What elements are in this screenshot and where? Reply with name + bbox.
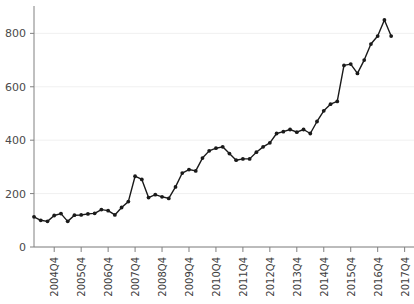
x-tick-label-2015Q4: 2015Q4 xyxy=(346,257,357,297)
data-point xyxy=(86,212,90,216)
data-point xyxy=(335,100,339,104)
y-tick-label-200: 200 xyxy=(5,188,26,201)
data-point xyxy=(126,200,130,204)
data-point xyxy=(369,42,373,46)
data-point xyxy=(66,219,70,223)
data-point xyxy=(160,195,164,199)
data-point xyxy=(113,213,117,217)
data-point xyxy=(383,18,387,22)
x-tick-label-2008Q4: 2008Q4 xyxy=(157,257,168,297)
chart-container: 0200400600800 2004Q42005Q42006Q42007Q420… xyxy=(0,0,414,304)
data-point xyxy=(261,145,265,149)
data-point xyxy=(234,158,238,162)
x-tick-label-2006Q4: 2006Q4 xyxy=(103,257,114,297)
data-point xyxy=(342,64,346,68)
data-point xyxy=(228,152,232,156)
x-tick-label-2013Q4: 2013Q4 xyxy=(292,257,303,297)
y-tick-label-600: 600 xyxy=(5,81,26,94)
data-point xyxy=(288,128,292,132)
data-point xyxy=(120,206,124,210)
data-point xyxy=(349,62,353,66)
x-tick-label-2012Q4: 2012Q4 xyxy=(265,257,276,297)
data-point xyxy=(308,132,312,136)
data-point xyxy=(133,174,137,178)
data-point xyxy=(93,211,97,215)
data-point xyxy=(201,156,205,160)
x-tick-label-2017Q4: 2017Q4 xyxy=(400,257,411,297)
y-tick-label-400: 400 xyxy=(5,134,26,147)
y-tick-label-800: 800 xyxy=(5,27,26,40)
x-tick-label-2016Q4: 2016Q4 xyxy=(373,257,384,297)
data-point xyxy=(99,208,103,212)
data-point xyxy=(79,213,83,217)
x-tick-label-2004Q4: 2004Q4 xyxy=(49,257,60,297)
data-point xyxy=(73,213,77,217)
data-point xyxy=(221,145,225,149)
data-point xyxy=(39,218,43,222)
data-point xyxy=(140,178,144,182)
x-tick-label-2005Q4: 2005Q4 xyxy=(76,257,87,297)
data-point xyxy=(106,209,110,213)
data-point xyxy=(322,109,326,113)
data-point xyxy=(281,130,285,134)
data-point xyxy=(254,150,258,154)
data-point xyxy=(268,141,272,145)
x-tick-label-2007Q4: 2007Q4 xyxy=(130,257,141,297)
x-tick-label-2009Q4: 2009Q4 xyxy=(184,257,195,297)
data-point xyxy=(167,196,171,200)
y-tick-label-0: 0 xyxy=(19,241,26,254)
data-point xyxy=(59,212,63,216)
data-point xyxy=(241,157,245,161)
data-point xyxy=(248,157,252,161)
data-point xyxy=(180,171,184,175)
data-point xyxy=(207,149,211,153)
data-point xyxy=(147,196,151,200)
x-tick-label-2014Q4: 2014Q4 xyxy=(319,257,330,297)
data-point xyxy=(52,214,56,218)
x-tick-label-2011Q4: 2011Q4 xyxy=(238,257,249,297)
data-point xyxy=(376,34,380,38)
data-point xyxy=(389,34,393,38)
data-point xyxy=(295,130,299,134)
data-point xyxy=(329,102,333,106)
data-point xyxy=(362,58,366,62)
data-point xyxy=(32,215,36,219)
data-point xyxy=(302,128,306,132)
data-point xyxy=(194,169,198,173)
data-point xyxy=(46,219,50,223)
line-chart: 0200400600800 2004Q42005Q42006Q42007Q420… xyxy=(0,0,414,304)
data-point xyxy=(214,146,218,150)
data-point xyxy=(315,120,319,124)
x-tick-label-2010Q4: 2010Q4 xyxy=(211,257,222,297)
data-point xyxy=(356,72,360,76)
data-point xyxy=(153,193,157,197)
data-point xyxy=(187,168,191,172)
data-point xyxy=(174,185,178,189)
data-point xyxy=(275,132,279,136)
